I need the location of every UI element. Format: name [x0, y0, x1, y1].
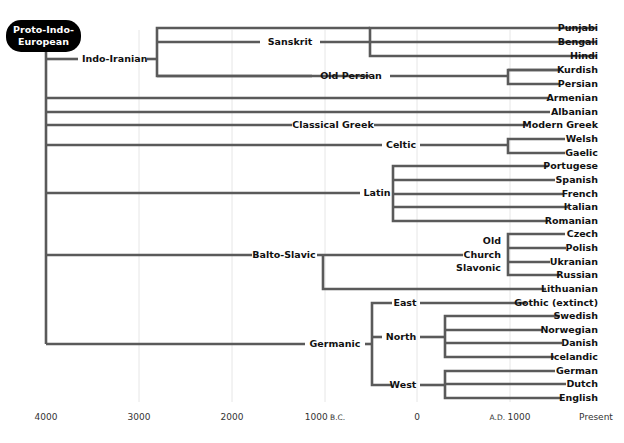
leaf-gothic: Gothic (extinct): [514, 297, 598, 308]
label-north: North: [386, 331, 417, 342]
leaf-spanish: Spanish: [556, 174, 599, 185]
leaf-modern-greek: Modern Greek: [522, 119, 598, 130]
label-east: East: [393, 297, 417, 308]
label-old-persian: Old Persian: [320, 70, 382, 81]
tick-ad1000: A.D. 1000: [490, 412, 531, 422]
tick-3000: 3000: [128, 412, 151, 422]
leaf-dutch: Dutch: [566, 378, 598, 389]
label-classical-greek: Classical Greek: [292, 119, 374, 130]
label-balto-slavic: Balto-Slavic: [252, 249, 316, 260]
leaf-polish: Polish: [566, 242, 599, 253]
language-tree-diagram: Proto-Indo- European Indo-Iranian Sanskr…: [0, 0, 624, 443]
label-old-church-slavonic-1: Old: [483, 235, 501, 246]
leaf-gaelic: Gaelic: [565, 147, 598, 158]
leaf-italian: Italian: [564, 201, 598, 212]
leaf-hindi: Hindi: [570, 50, 598, 61]
root-node-proto-indo-european: Proto-Indo- European: [6, 20, 81, 52]
label-sanskrit: Sanskrit: [268, 36, 313, 47]
leaf-albanian: Albanian: [551, 106, 598, 117]
label-germanic: Germanic: [310, 338, 361, 349]
leaf-french: French: [562, 188, 598, 199]
tick-present: Present: [579, 412, 613, 422]
leaf-ukranian: Ukranian: [550, 256, 599, 267]
leaf-german: German: [556, 365, 598, 376]
leaf-norwegian: Norwegian: [540, 324, 598, 335]
leaf-kurdish: Kurdish: [557, 64, 598, 75]
label-old-church-slavonic-2: Church: [463, 249, 501, 260]
tick-0: 0: [414, 412, 420, 422]
leaf-swedish: Swedish: [553, 310, 598, 321]
leaf-english: English: [559, 392, 598, 403]
leaf-russian: Russian: [556, 269, 598, 280]
leaf-portugese: Portugese: [543, 160, 598, 171]
leaf-icelandic: Icelandic: [550, 351, 598, 362]
leaf-punjabi: Punjabi: [558, 22, 598, 33]
tick-4000: 4000: [35, 412, 58, 422]
leaf-danish: Danish: [561, 337, 598, 348]
label-old-church-slavonic-3: Slavonic: [456, 262, 501, 273]
tick-1000bc: 1000 B.C.: [305, 412, 345, 422]
label-west: West: [390, 379, 417, 390]
label-indo-iranian: Indo-Iranian: [82, 53, 148, 64]
leaf-armenian: Armenian: [546, 92, 598, 103]
leaf-lithuanian: Lithuanian: [541, 283, 598, 294]
svg-text:European: European: [18, 36, 69, 47]
leaf-labels: Punjabi Bengali Hindi Kurdish Persian Ar…: [514, 22, 598, 403]
time-axis: 4000 3000 2000 1000 B.C. 0 A.D. 1000 Pre…: [35, 412, 614, 422]
leaf-czech: Czech: [567, 228, 599, 239]
leaf-romanian: Romanian: [545, 215, 599, 226]
label-latin: Latin: [363, 187, 390, 198]
tick-2000: 2000: [221, 412, 244, 422]
leaf-welsh: Welsh: [566, 133, 598, 144]
leaf-persian: Persian: [558, 78, 598, 89]
label-celtic: Celtic: [386, 139, 416, 150]
leaf-bengali: Bengali: [558, 36, 598, 47]
svg-text:Proto-Indo-: Proto-Indo-: [13, 24, 74, 35]
